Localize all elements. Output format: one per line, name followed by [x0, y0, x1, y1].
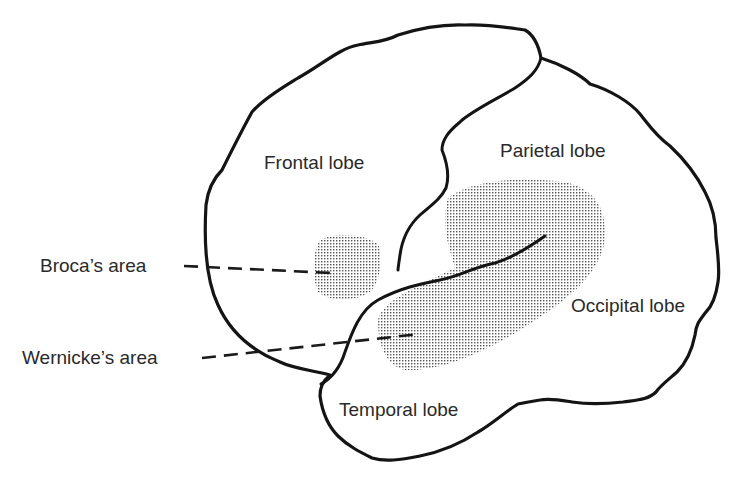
label-wernicke-area: Wernicke’s area	[22, 348, 158, 367]
wernicke-area-region	[378, 179, 605, 370]
broca-leader-line	[184, 266, 332, 273]
label-parietal-lobe: Parietal lobe	[500, 141, 606, 160]
label-broca-area: Broca’s area	[40, 256, 146, 275]
brain-diagram	[0, 0, 755, 500]
label-occipital-lobe: Occipital lobe	[571, 296, 685, 315]
label-frontal-lobe: Frontal lobe	[264, 153, 364, 172]
broca-area-region	[314, 235, 381, 299]
label-temporal-lobe: Temporal lobe	[339, 400, 458, 419]
